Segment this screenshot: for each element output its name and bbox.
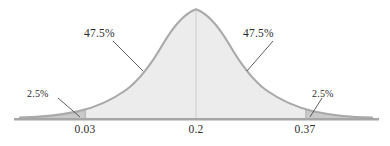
x-axis-tick-label-mean: 0.2 — [171, 123, 221, 135]
left-475-leader-line — [113, 41, 143, 71]
right-tail-percentage-label: 2.5% — [312, 88, 334, 99]
left-body-percentage-label: 47.5% — [84, 27, 115, 39]
x-axis-tick-label-upper-bound: 0.37 — [280, 123, 330, 135]
right-475-leader-line — [247, 41, 273, 71]
right-body-percentage-label: 47.5% — [243, 27, 274, 39]
x-axis-tick-label-lower-bound: 0.03 — [60, 123, 110, 135]
normal-distribution-chart: 47.5% 47.5% 2.5% 2.5% 0.03 0.2 0.37 — [0, 0, 390, 146]
left-tail-percentage-label: 2.5% — [27, 88, 49, 99]
